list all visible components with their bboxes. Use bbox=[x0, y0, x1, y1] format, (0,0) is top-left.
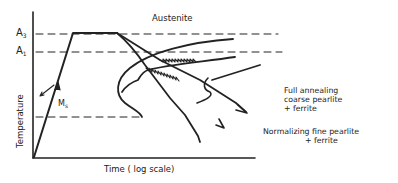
annotation-line: Normalizing fine pearlite bbox=[263, 127, 359, 136]
x-axis-label: Time ( log scale) bbox=[104, 165, 174, 174]
austenite-label: Austenite bbox=[152, 14, 193, 23]
a1-symbol: A bbox=[16, 45, 23, 56]
annotation-line: Full annealing bbox=[284, 86, 342, 95]
pearlite-zigzag-upper bbox=[160, 59, 196, 62]
annotation-line: + ferrite bbox=[284, 104, 342, 113]
cooling-curve-furnace bbox=[117, 33, 246, 112]
transformation-end-line bbox=[212, 65, 260, 80]
ms-arrow-icon bbox=[40, 85, 54, 96]
cooling-curve-air bbox=[117, 33, 200, 142]
normalizing-annotation: Normalizing fine pearlite + ferrite bbox=[263, 127, 359, 145]
a1-label: A1 bbox=[16, 46, 27, 57]
ms-symbol: M bbox=[58, 99, 65, 108]
full-annealing-arrow-icon bbox=[236, 105, 247, 113]
a3-label: A3 bbox=[16, 28, 27, 39]
a1-sub: 1 bbox=[23, 50, 27, 57]
annotation-line: + ferrite bbox=[263, 136, 359, 145]
a3-sub: 3 bbox=[23, 32, 27, 39]
annotation-line: coarse pearlite bbox=[284, 95, 342, 104]
ms-sub: s bbox=[65, 102, 68, 109]
pearlite-zigzag-lower bbox=[146, 68, 179, 81]
ms-label: Ms bbox=[58, 100, 68, 109]
a3-symbol: A bbox=[16, 27, 23, 38]
normalizing-arrow-icon bbox=[216, 119, 224, 128]
full-annealing-annotation: Full annealing coarse pearlite + ferrite bbox=[284, 86, 342, 113]
y-axis-label: Temperature bbox=[16, 94, 25, 148]
